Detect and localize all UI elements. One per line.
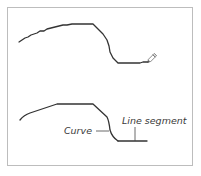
diagram-canvas: Curve Line segment: [0, 0, 201, 176]
freehand-stroke: [19, 24, 148, 63]
curve-label: Curve: [64, 125, 92, 136]
line-segment-label: Line segment: [122, 115, 188, 126]
pencil-icon: [146, 53, 157, 64]
